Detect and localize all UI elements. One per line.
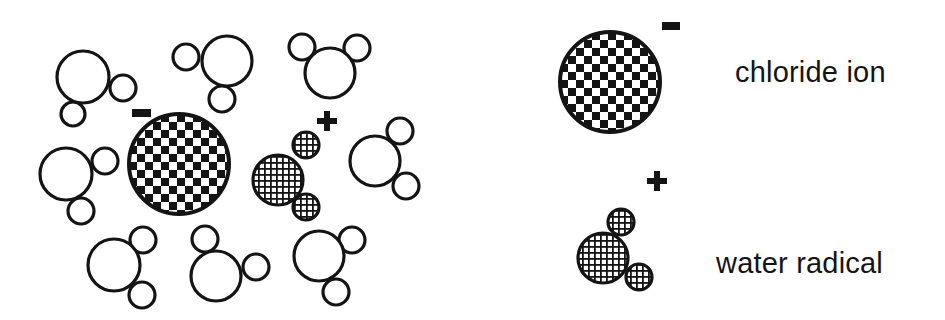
hydrogen-atom [243, 254, 269, 280]
radical-hydrogen-atom [293, 132, 319, 158]
oxygen-atom [305, 48, 355, 98]
hydrogen-atom [68, 198, 94, 224]
legend-label-chloride-ion: chloride ion [735, 56, 886, 89]
radical-oxygen-atom [253, 155, 303, 205]
legend-water-radical-symbol [578, 171, 667, 290]
hydrogen-atom [110, 75, 136, 101]
hydrogen-atom [323, 279, 349, 305]
legend [560, 22, 680, 290]
legend-radical-oxygen-atom [578, 233, 628, 283]
oxygen-atom [350, 136, 400, 186]
water-molecule [173, 36, 252, 112]
oxygen-atom [40, 148, 92, 200]
hydrogen-atom [192, 226, 218, 252]
chloride-ion-circle [129, 114, 229, 214]
legend-radical-hydrogen-atom [608, 209, 634, 235]
water-molecule [289, 34, 370, 98]
water-molecule [191, 226, 269, 301]
hydrogen-atom [393, 173, 419, 199]
legend-chloride-circle [560, 32, 660, 132]
oxygen-atom [88, 239, 140, 291]
water-radical [253, 111, 337, 220]
oxygen-atom [202, 36, 252, 86]
legend-plus-icon [647, 171, 667, 191]
plus-charge-icon [317, 111, 337, 131]
legend-radical-hydrogen-atom [626, 264, 652, 290]
water-molecule [294, 227, 365, 305]
water-molecule [40, 148, 118, 224]
water-molecule [88, 227, 156, 308]
hydrogen-atom [92, 148, 118, 174]
water-molecule [350, 118, 419, 199]
oxygen-atom [57, 51, 109, 103]
chloride-ion [129, 109, 229, 214]
hydrogen-atom [61, 102, 85, 126]
hydrogen-atom [173, 44, 199, 70]
legend-chloride-symbol [560, 22, 680, 132]
water-molecule [57, 51, 136, 126]
hydrogen-atom [129, 282, 155, 308]
oxygen-atom [294, 231, 344, 281]
legend-minus-icon [662, 22, 680, 30]
minus-charge-icon [132, 109, 151, 117]
hydrogen-atom [209, 86, 235, 112]
oxygen-atom [191, 251, 241, 301]
legend-label-water-radical: water radical [716, 247, 883, 280]
